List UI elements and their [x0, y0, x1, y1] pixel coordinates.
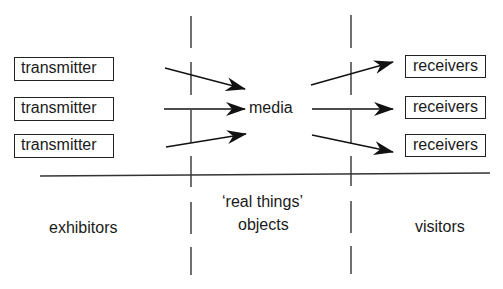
- transmitter-box: transmitter: [14, 97, 114, 121]
- media-label: media: [249, 99, 293, 117]
- exhibitors-label: exhibitors: [49, 219, 117, 237]
- arrows-to-media: [164, 68, 246, 147]
- objects-label: objects: [238, 216, 289, 234]
- horizontal-baseline: [40, 173, 490, 176]
- receiver-box: receivers: [405, 134, 486, 157]
- real-things-label: ‘real things’: [222, 193, 303, 211]
- arrows-to-receivers: [311, 62, 393, 152]
- visitors-label: visitors: [415, 218, 465, 236]
- receiver-box: receivers: [405, 96, 486, 119]
- transmitter-box: transmitter: [14, 57, 114, 81]
- receiver-box: receivers: [405, 55, 486, 78]
- transmitter-box: transmitter: [14, 134, 114, 158]
